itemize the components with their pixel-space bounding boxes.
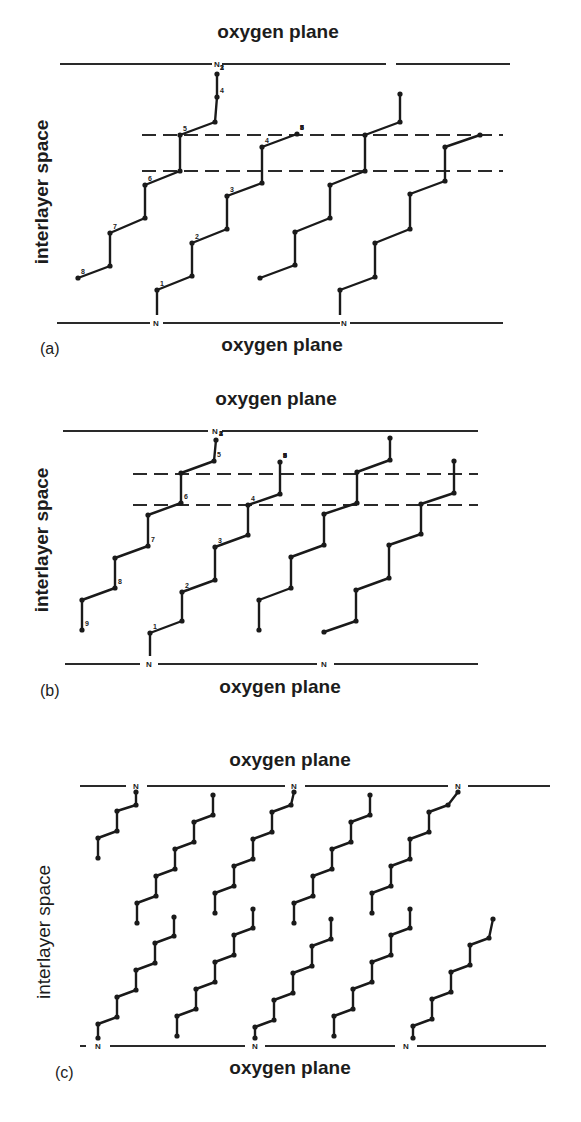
carbon-atom	[397, 119, 402, 124]
carbon-atom	[388, 952, 393, 957]
carbon-atom	[231, 883, 236, 888]
carbon-atom	[429, 996, 434, 1001]
carbon-atom	[467, 942, 472, 947]
carbon-atom	[369, 959, 374, 964]
carbon-atom	[95, 1035, 100, 1040]
carbon-atom	[252, 1035, 257, 1040]
carbon-atom	[407, 925, 412, 930]
carbon-number-label: 8	[81, 268, 85, 275]
carbon-atom	[291, 789, 296, 794]
carbon-atom	[277, 491, 282, 496]
carbon-atom	[259, 144, 264, 149]
carbon-atom	[154, 287, 159, 292]
carbon-number-label: 1	[160, 280, 164, 287]
carbon-atom	[426, 809, 431, 814]
carbon-atom	[259, 180, 264, 185]
carbon-atom	[147, 630, 152, 635]
alkyl-chain	[294, 795, 370, 923]
panel-a: oxygen planeoxygen plane(a)interlayer sp…	[31, 21, 510, 357]
carbon-atom	[269, 809, 274, 814]
carbon-atom	[174, 1033, 179, 1038]
carbon-atom	[362, 168, 367, 173]
carbon-atom	[79, 627, 84, 632]
top-oxygen-plane-label: oxygen plane	[217, 21, 338, 42]
carbon-atom	[193, 986, 198, 991]
carbon-atom	[386, 542, 391, 547]
carbon-atom	[212, 119, 217, 124]
alkyl-chain	[334, 909, 410, 1036]
carbon-atom	[145, 543, 150, 548]
carbon-atom	[369, 910, 374, 915]
carbon-atom	[310, 893, 315, 898]
carbon-number-label: 3	[218, 537, 222, 544]
carbon-number-label: 7	[113, 223, 117, 230]
carbon-atom	[210, 792, 215, 797]
carbon-number-label: 6	[148, 175, 152, 182]
carbon-atom	[321, 542, 326, 547]
carbon-atom	[107, 230, 112, 235]
carbon-number-label: 9	[283, 452, 287, 459]
carbon-atom	[152, 960, 157, 965]
carbon-atom	[231, 863, 236, 868]
carbon-atom	[486, 935, 491, 940]
carbon-atom	[328, 936, 333, 941]
carbon-atom	[310, 873, 315, 878]
carbon-atom	[337, 287, 342, 292]
carbon-atom	[114, 994, 119, 999]
carbon-atom	[388, 883, 393, 888]
carbon-number-label: 2	[185, 582, 189, 589]
carbon-atom	[191, 839, 196, 844]
carbon-number-label: 5	[183, 125, 187, 132]
carbon-atom	[212, 979, 217, 984]
alkyl-chain	[157, 134, 297, 290]
carbon-atom	[257, 275, 262, 280]
carbon-number-label: 8	[118, 578, 122, 585]
carbon-atom	[331, 1013, 336, 1018]
carbon-atom	[467, 962, 472, 967]
carbon-atom	[387, 435, 392, 440]
carbon-atom	[178, 500, 183, 505]
bottom-oxygen-plane-label: oxygen plane	[219, 676, 340, 697]
carbon-atom	[114, 1014, 119, 1019]
carbon-atom	[134, 920, 139, 925]
carbon-atom	[114, 828, 119, 833]
carbon-atom	[133, 789, 138, 794]
carbon-atom	[145, 512, 150, 517]
carbon-number-label: 6	[184, 493, 188, 500]
carbon-atom	[211, 458, 216, 463]
alkyl-chain	[372, 792, 458, 913]
carbon-atom	[292, 262, 297, 267]
nitrogen-marker: N	[341, 319, 347, 328]
carbon-atom	[387, 457, 392, 462]
carbon-atom	[407, 906, 412, 911]
carbon-atom	[142, 215, 147, 220]
carbon-atom	[329, 866, 334, 871]
carbon-atom	[362, 132, 367, 137]
top-oxygen-plane-label: oxygen plane	[215, 388, 336, 409]
carbon-atom	[193, 1006, 198, 1011]
carbon-atom	[212, 890, 217, 895]
carbon-atom	[171, 914, 176, 919]
carbon-atom	[224, 226, 229, 231]
carbon-atom	[277, 459, 282, 464]
carbon-atom	[388, 932, 393, 937]
nitrogen-marker: N	[212, 427, 218, 436]
carbon-atom	[445, 802, 450, 807]
nitrogen-marker: N	[95, 1042, 101, 1051]
nitrogen-marker: N	[252, 1042, 258, 1051]
carbon-atom	[95, 835, 100, 840]
carbon-atom	[290, 970, 295, 975]
carbon-atom	[321, 511, 326, 516]
alkyl-chain	[98, 917, 174, 1038]
carbon-number-label: 5	[217, 451, 221, 458]
carbon-atom	[388, 863, 393, 868]
clay-intercalation-diagram: oxygen planeoxygen plane(a)interlayer sp…	[0, 0, 581, 1122]
alkyl-chain	[82, 440, 216, 630]
alkyl-chain	[98, 792, 136, 858]
carbon-atom	[189, 240, 194, 245]
alkyl-chain	[177, 909, 253, 1036]
carbon-atom	[95, 855, 100, 860]
interlayer-space-label: interlayer space	[31, 468, 52, 613]
carbon-atom	[112, 555, 117, 560]
carbon-atom	[288, 554, 293, 559]
